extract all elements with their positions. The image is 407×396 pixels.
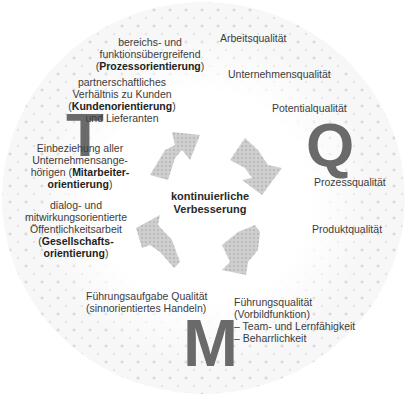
label-line: orientierung) bbox=[20, 247, 132, 259]
label-unternehmensqualitaet: Unternehmensqualität bbox=[228, 68, 331, 80]
letter-q: Q bbox=[306, 114, 354, 176]
label-line: (Prozessorientierung) bbox=[90, 60, 210, 72]
label-line: (Gesellschafts- bbox=[20, 235, 132, 247]
label-line: – Team- und Lernfähigkeit bbox=[234, 320, 355, 332]
label-prozessqualitaet: Prozessqualität bbox=[314, 176, 386, 188]
arrow-top-right-icon bbox=[230, 138, 282, 195]
label-fuehrungsqualitaet: Führungsqualität (Vorbildfunktion) – Tea… bbox=[234, 296, 355, 344]
label-line: – Beharrlichkeit bbox=[234, 332, 355, 344]
label-line: (sinnorientiertes Handeln) bbox=[86, 302, 207, 314]
arrow-bottom-right-icon bbox=[222, 225, 260, 275]
label-line: orientierung) bbox=[28, 178, 132, 190]
label-line: Verhältnis zu Kunden bbox=[63, 88, 181, 100]
item-process-orientation: bereichs- und funktionsübergreifend (Pro… bbox=[90, 36, 210, 72]
item-employee-orientation: Einbeziehung aller Unternehmensange- hör… bbox=[28, 142, 132, 190]
label-line: Unternehmensange- bbox=[28, 154, 132, 166]
item-society-orientation: dialog- und mitwirkungsorientierte Öffen… bbox=[20, 199, 132, 259]
label-line: funktionsübergreifend bbox=[90, 48, 210, 60]
label-line: (Vorbildfunktion) bbox=[234, 308, 355, 320]
label-line: Öffentlichkeitsarbeit bbox=[20, 223, 132, 235]
center-line: Verbesserung bbox=[160, 203, 260, 216]
label-line: dialog- und bbox=[20, 199, 132, 211]
center-line: kontinuierliche bbox=[160, 190, 260, 203]
letter-m: M bbox=[183, 310, 238, 376]
label-line: hörigen (Mitarbeiter- bbox=[28, 166, 132, 178]
label-line: bereichs- und bbox=[90, 36, 210, 48]
item-customer-orientation: partnerschaftliches Verhältnis zu Kunden… bbox=[63, 76, 181, 124]
arrow-bottom-left-icon bbox=[136, 215, 180, 268]
label-line: (Kundenorientierung) bbox=[63, 100, 181, 112]
arrow-top-left-icon bbox=[150, 132, 200, 180]
label-line: Führungsqualität bbox=[234, 296, 355, 308]
label-produktqualitaet: Produktqualität bbox=[312, 223, 382, 235]
label-line: und Lieferanten bbox=[63, 112, 181, 124]
label-line: Führungsaufgabe Qualität bbox=[86, 290, 207, 302]
label-fuehrungsaufgabe: Führungsaufgabe Qualität (sinnorientiert… bbox=[86, 290, 207, 314]
label-line: Einbeziehung aller bbox=[28, 142, 132, 154]
center-label: kontinuierliche Verbesserung bbox=[160, 190, 260, 216]
label-potentialqualitaet: Potentialqualität bbox=[272, 102, 347, 114]
label-arbeitsqualitaet: Arbeitsqualität bbox=[220, 32, 287, 44]
label-line: partnerschaftliches bbox=[63, 76, 181, 88]
label-line: mitwirkungsorientierte bbox=[20, 211, 132, 223]
